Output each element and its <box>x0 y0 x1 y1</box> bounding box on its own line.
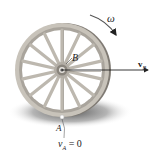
wheel-illustration <box>0 0 155 155</box>
point-a-marker <box>60 115 64 119</box>
omega-label: ω <box>107 13 115 24</box>
point-b-label: B <box>72 53 78 63</box>
velocity-a-equation: = 0 <box>66 138 82 149</box>
wheel-diagram: ω B vB A vA = 0 <box>0 0 155 155</box>
velocity-b-label: vB <box>138 60 146 71</box>
velocity-b-subscript: B <box>143 65 147 71</box>
velocity-a-label: vA = 0 <box>58 139 82 151</box>
point-a-label: A <box>56 124 62 133</box>
